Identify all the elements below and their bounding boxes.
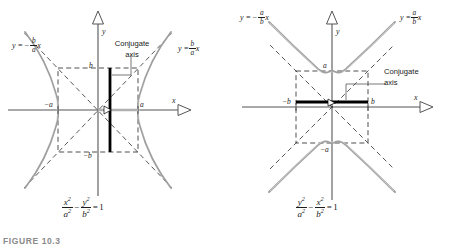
equation-term-2: y2b2 (81, 196, 92, 220)
conjugate-axis-line2: axis (384, 78, 398, 87)
conjugate-axis-line1: Conjugate (384, 67, 419, 76)
x-axis-label-left: x (172, 97, 176, 105)
asymptote-denominator: b (411, 18, 418, 26)
hyperbola-panel-vertical: y x −b b a −a y =−abx y =abx Conjugate a… (234, 0, 468, 230)
tick-label-negative-a-right: −a (320, 146, 329, 154)
asymptote-prefix: y = (400, 13, 411, 22)
conjugate-axis-line1: Conjugate (115, 39, 150, 48)
equation-operator: − (307, 202, 315, 212)
asymptote-variable: x (37, 41, 41, 50)
asymptote-label-right-upper-right: y =abx (400, 9, 421, 27)
conjugate-axis-leader-right (346, 84, 386, 100)
asymptote-prefix: y = (240, 13, 251, 22)
hyperbola-figure: y x −a a b −b y =−bax y =bax Conjugate a… (0, 0, 468, 246)
equation-denominator-1: a2 (296, 208, 307, 219)
equation-numerator-1: x2 (62, 196, 73, 208)
y-axis-label-right: y (336, 28, 340, 36)
asymptote-prefix: y = (12, 41, 23, 50)
tick-label-positive-b-right: b (371, 98, 375, 106)
equation-term-1: y2a2 (296, 196, 307, 220)
equation-denominator-1: a2 (62, 208, 73, 219)
left-plot-canvas (0, 0, 234, 230)
tick-label-positive-a-right: a (323, 62, 327, 70)
equation-numerator-1: y2 (296, 196, 307, 208)
tick-label-negative-a-left: −a (44, 101, 53, 109)
asymptote-fraction: ab (258, 9, 265, 27)
asymptote-sign: − (23, 41, 31, 50)
tick-label-negative-b-right: −b (282, 98, 291, 106)
asymptote-fraction: ab (411, 9, 418, 27)
asymptote-denominator: a (189, 49, 196, 57)
asymptote-fraction: ba (30, 37, 37, 55)
asymptote-denominator: b (258, 18, 265, 26)
tick-label-negative-b-left: −b (83, 152, 92, 160)
asymptote-label-right-upper-left: y =−abx (240, 9, 269, 27)
asymptote-variable: x (196, 44, 200, 53)
equation-denominator-2: b2 (81, 208, 92, 219)
asymptote-label-left-upper-right: y =bax (178, 40, 199, 58)
equation-term-1: x2a2 (62, 196, 73, 220)
equation-value: 1 (99, 202, 104, 212)
x-axis-label-right: x (414, 94, 418, 102)
equation-value: 1 (333, 202, 338, 212)
equation-numerator-2: y2 (81, 196, 92, 208)
conjugate-axis-line2: axis (125, 50, 139, 59)
hyperbola-panel-horizontal: y x −a a b −b y =−bax y =bax Conjugate a… (0, 0, 234, 230)
asymptote-variable: x (418, 13, 422, 22)
asymptote-fraction: ba (189, 40, 196, 58)
asymptote-prefix: y = (178, 44, 189, 53)
tick-label-positive-b-left: b (89, 62, 93, 70)
asymptote-denominator: a (30, 46, 37, 54)
equation-left: x2a2−y2b2=1 (62, 196, 104, 220)
y-axis-label-left: y (102, 28, 106, 36)
conjugate-axis-annotation-left: Conjugate axis (104, 38, 160, 60)
equation-right: y2a2−x2b2=1 (296, 196, 338, 220)
asymptote-label-left-upper-left: y =−bax (12, 37, 41, 55)
equation-denominator-2: b2 (315, 208, 326, 219)
equation-numerator-2: x2 (315, 196, 326, 208)
asymptote-variable: x (265, 13, 269, 22)
y-axis-left (93, 11, 104, 196)
right-plot-canvas (234, 0, 468, 230)
figure-caption: FIGURE 10.3 (3, 236, 61, 246)
equation-operator: − (73, 202, 81, 212)
equation-term-2: x2b2 (315, 196, 326, 220)
conjugate-axis-annotation-right: Conjugate axis (384, 66, 440, 88)
tick-label-positive-a-left: a (140, 101, 144, 109)
asymptote-sign: − (251, 13, 259, 22)
